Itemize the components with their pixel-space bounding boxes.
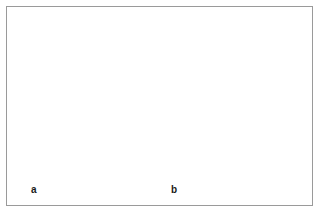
figure-border-frame: [6, 6, 313, 206]
panel-label-a: a: [31, 185, 37, 195]
panel-label-b: b: [171, 185, 177, 195]
figure-root: a b: [0, 0, 320, 214]
